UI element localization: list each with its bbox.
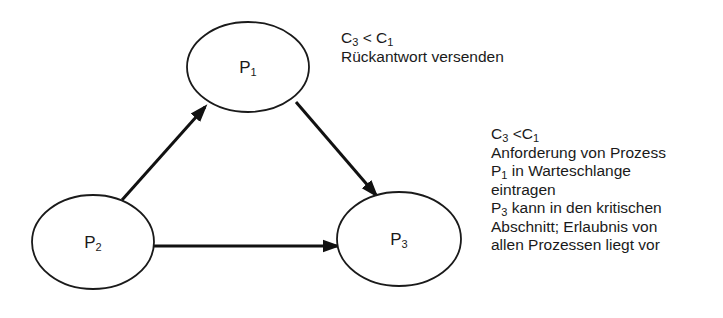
- p3-text-line-3: eintragen: [491, 181, 666, 200]
- p3-text-line-2: P1 in Warteschlange: [491, 162, 666, 181]
- p3-text-line-1: Anforderung von Prozess: [491, 144, 666, 163]
- p1-annotation: C3 < C1 Rückantwort versenden: [341, 29, 504, 66]
- p3-condition: C3 <C1: [491, 125, 666, 144]
- arrow-p2-to-p1: [122, 107, 205, 200]
- node-label-p2: P2: [84, 234, 101, 251]
- node-label-p1: P1: [239, 59, 256, 76]
- p3-annotation: C3 <C1 Anforderung von Prozess P1 in War…: [491, 125, 666, 255]
- p1-action-text: Rückantwort versenden: [341, 48, 504, 67]
- edges-group: [122, 102, 376, 246]
- p3-text-line-5: Abschnitt; Erlaubnis von: [491, 218, 666, 237]
- p3-text-line-6: allen Prozessen liegt vor: [491, 236, 666, 255]
- arrow-p1-to-p3: [296, 102, 376, 195]
- node-label-p3: P3: [390, 231, 407, 248]
- p1-condition: C3 < C1: [341, 29, 504, 48]
- p3-text-line-4: P3 kann in den kritischen: [491, 199, 666, 218]
